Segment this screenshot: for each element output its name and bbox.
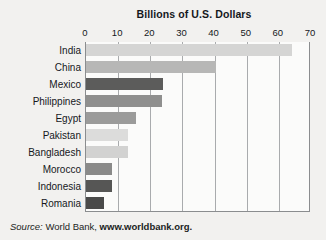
chart-title: Billions of U.S. Dollars xyxy=(78,8,310,20)
x-tick-label: 70 xyxy=(305,27,316,38)
source-label: Source: xyxy=(10,221,43,232)
bar-row xyxy=(86,110,309,127)
y-tick-label: Romania xyxy=(41,195,81,212)
x-tick-label: 10 xyxy=(112,27,123,38)
x-tick-label: 30 xyxy=(176,27,187,38)
source-note: Source: World Bank, www.worldbank.org. xyxy=(10,221,192,232)
bar[interactable] xyxy=(86,197,104,209)
y-tick-label: Egypt xyxy=(55,110,81,127)
y-tick-label: Bangladesh xyxy=(28,144,81,161)
bar-row xyxy=(86,76,309,93)
x-tick-label: 20 xyxy=(144,27,155,38)
bar-row xyxy=(86,144,309,161)
bar-row xyxy=(86,42,309,59)
bars-layer xyxy=(86,42,309,211)
plot-area xyxy=(85,42,310,212)
x-tick-label: 40 xyxy=(208,27,219,38)
bar[interactable] xyxy=(86,163,112,175)
bar[interactable] xyxy=(86,112,136,124)
bar[interactable] xyxy=(86,146,128,158)
bar-row xyxy=(86,127,309,144)
bar-row xyxy=(86,161,309,178)
y-tick-label: Morocco xyxy=(43,161,81,178)
bar[interactable] xyxy=(86,180,112,192)
y-tick-label: Pakistan xyxy=(43,127,81,144)
y-tick-label: India xyxy=(59,42,81,59)
y-tick-label: Indonesia xyxy=(38,178,81,195)
chart-figure: Billions of U.S. Dollars 010203040506070… xyxy=(0,0,326,240)
bar-row xyxy=(86,59,309,76)
y-tick-label: China xyxy=(55,59,81,76)
y-tick-label: Philippines xyxy=(33,93,81,110)
bar[interactable] xyxy=(86,61,216,73)
bar-row xyxy=(86,195,309,212)
x-tick-label: 60 xyxy=(273,27,284,38)
x-axis-tick-labels: 010203040506070 xyxy=(85,27,310,41)
y-tick-label: Mexico xyxy=(49,76,81,93)
y-axis-category-labels: IndiaChinaMexicoPhilippinesEgyptPakistan… xyxy=(0,42,81,212)
x-tick-label: 0 xyxy=(82,27,87,38)
bar[interactable] xyxy=(86,44,292,56)
bar-row xyxy=(86,178,309,195)
x-tick-label: 50 xyxy=(240,27,251,38)
bar[interactable] xyxy=(86,78,163,90)
source-publisher: World Bank, xyxy=(45,221,97,232)
source-url[interactable]: www.worldbank.org. xyxy=(100,221,193,232)
bar[interactable] xyxy=(86,95,162,107)
bar-row xyxy=(86,93,309,110)
bar[interactable] xyxy=(86,129,128,141)
